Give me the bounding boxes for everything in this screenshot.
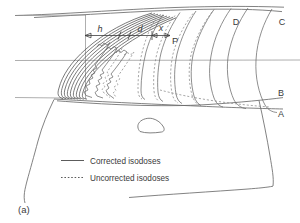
- legend-label-corrected: Corrected isodoses: [90, 157, 161, 166]
- isodose-uncorrected-curve: [171, 14, 193, 104]
- curve-label-d: D: [233, 17, 240, 27]
- curve-label-c: C: [279, 17, 286, 27]
- internal-structure-outline: [138, 118, 164, 133]
- dimension-label-x: x: [158, 23, 164, 33]
- grid-line-middle: [15, 60, 300, 61]
- isodose-corrected-curve-c: [256, 9, 277, 113]
- figure-caption: (a): [18, 204, 30, 215]
- boundary-line-a: [54, 99, 283, 109]
- body-outline-bottom: [129, 186, 273, 197]
- figure-container: h d x P D C B A Corrected isodoses Uncor…: [0, 0, 300, 223]
- legend-group: Corrected isodoses Uncorrected isodoses: [61, 157, 169, 183]
- isodose-figure-svg: h d x P D C B A Corrected isodoses Uncor…: [0, 0, 300, 223]
- body-outline-left: [24, 100, 54, 204]
- dimension-label-d: d: [137, 24, 143, 34]
- isodose-uncorrected-curve: [154, 16, 175, 102]
- curve-label-b: B: [278, 88, 284, 98]
- body-outline-right: [259, 101, 273, 187]
- curve-labels-group: D C B A: [233, 17, 286, 119]
- point-label-p: P: [172, 35, 178, 46]
- grid-line-top: [15, 15, 86, 16]
- legend-label-uncorrected: Uncorrected isodoses: [90, 174, 169, 183]
- dimension-label-h: h: [97, 24, 102, 34]
- curve-label-a: A: [278, 109, 284, 119]
